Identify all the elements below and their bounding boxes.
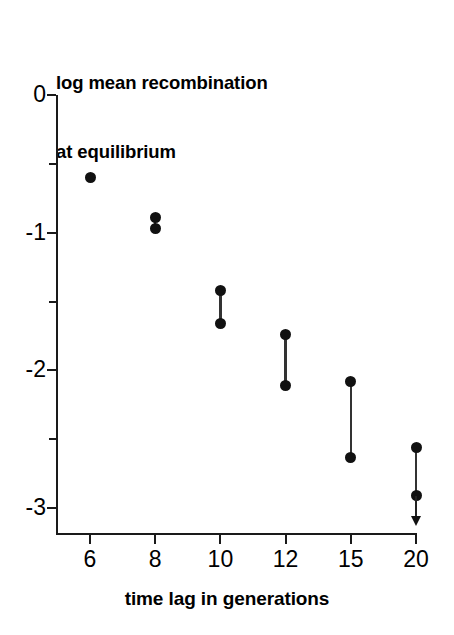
x-axis-tick-label: 12 — [256, 548, 316, 571]
data-point — [345, 452, 356, 463]
data-point — [215, 285, 226, 296]
data-point — [345, 376, 356, 387]
x-axis-tick — [285, 535, 287, 544]
down-arrow-shaft — [415, 496, 417, 517]
y-axis-tick — [47, 94, 56, 96]
data-point — [85, 172, 96, 183]
range-connector-line — [284, 335, 286, 386]
data-point — [150, 223, 161, 234]
data-point — [150, 212, 161, 223]
y-axis-minor-tick — [49, 301, 56, 303]
y-axis-tick — [47, 369, 56, 371]
x-axis-tick — [219, 535, 221, 544]
x-axis-tick-label: 20 — [386, 548, 446, 571]
x-axis-tick — [415, 535, 417, 544]
y-axis-tick — [47, 507, 56, 509]
y-axis-minor-tick — [49, 163, 56, 165]
x-axis-tick-label: 8 — [125, 548, 185, 571]
y-axis-minor-tick — [49, 438, 56, 440]
down-arrow-icon — [411, 516, 421, 526]
y-axis-tick-label: -2 — [6, 358, 46, 381]
plot-area: 0-1-2-3 6810121520 — [0, 0, 454, 635]
range-connector-line — [415, 448, 417, 496]
x-axis-tick-label: 10 — [190, 548, 250, 571]
data-point — [411, 442, 422, 453]
x-axis-tick — [350, 535, 352, 544]
x-axis-line — [56, 533, 417, 535]
y-axis-tick-label: -3 — [6, 496, 46, 519]
y-axis-tick-label: -1 — [6, 221, 46, 244]
figure: log mean recombination at equilibrium 0-… — [0, 0, 454, 635]
y-axis-line — [56, 95, 58, 535]
data-point — [280, 380, 291, 391]
x-axis-title: time lag in generations — [0, 588, 454, 610]
x-axis-tick — [89, 535, 91, 544]
y-axis-tick — [47, 232, 56, 234]
y-axis-tick-label: 0 — [6, 83, 46, 106]
x-axis-tick-label: 15 — [321, 548, 381, 571]
data-point — [215, 318, 226, 329]
range-connector-line — [350, 381, 352, 457]
x-axis-tick — [154, 535, 156, 544]
data-point — [280, 329, 291, 340]
x-axis-tick-label: 6 — [60, 548, 120, 571]
